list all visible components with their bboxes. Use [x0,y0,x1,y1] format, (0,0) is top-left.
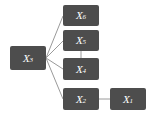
edge-x3-x6 [46,16,63,58]
node-x6-subscript: 6 [83,14,87,21]
node-x3[interactable]: X3 [10,46,46,70]
node-x6[interactable]: X6 [63,5,99,26]
edge-x3-x2 [46,58,63,99]
node-x6-variable: X [76,10,83,21]
graph-diagram: X3 X6 X5 X4 X2 X1 [0,0,150,117]
node-x4-variable: X [76,64,83,75]
node-x4[interactable]: X4 [63,58,99,80]
node-x5[interactable]: X5 [63,30,99,51]
node-x2-variable: X [76,94,83,105]
node-x4-subscript: 4 [83,68,87,75]
node-x5-variable: X [76,35,83,46]
node-x3-variable: X [23,53,30,64]
node-x5-subscript: 5 [83,39,87,46]
node-x2-subscript: 2 [83,98,87,105]
node-x1[interactable]: X1 [110,88,146,110]
node-x1-subscript: 1 [130,98,134,105]
node-x1-variable: X [123,94,130,105]
edge-x3-x5 [46,41,63,58]
node-x2[interactable]: X2 [63,88,99,110]
node-x3-subscript: 3 [30,57,34,64]
